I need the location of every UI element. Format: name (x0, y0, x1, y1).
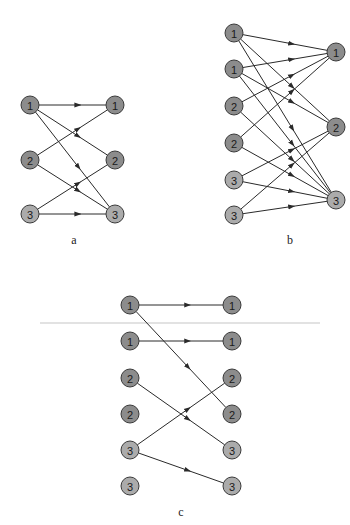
edge-L1-R3 (36, 112, 110, 207)
node-L1b: 1 (121, 332, 139, 350)
edge-tail-segment (292, 129, 331, 193)
panel-label-b: b (287, 233, 293, 247)
node-L3b: 3 (121, 477, 139, 495)
edge-tail-segment (292, 58, 329, 91)
node-R3b: 3 (223, 477, 241, 495)
edge-L2b-R1 (241, 58, 330, 137)
node-label: 2 (229, 409, 235, 421)
node-label: 3 (231, 175, 237, 187)
node-label: 3 (127, 445, 133, 457)
edge-tail-segment (188, 470, 224, 483)
node-label: 2 (27, 155, 33, 167)
edge-tail-segment (292, 144, 330, 193)
node-label: 2 (231, 101, 237, 113)
node-R1: 1 (327, 43, 345, 61)
node-label: 1 (127, 300, 133, 312)
edge-L3a-R3b (138, 453, 223, 483)
node-L3a: 3 (225, 171, 243, 189)
edge-L3a-R2 (242, 131, 328, 176)
panel-label-a: a (71, 233, 77, 247)
edge-L2a-R1 (242, 56, 328, 102)
bipartite-diagrams: 123123a112233123b112233112233c (0, 0, 350, 525)
node-R2: 2 (106, 151, 124, 169)
node-label: 1 (127, 336, 133, 348)
edge-L3b-R3 (243, 201, 327, 213)
edge-L1b-R1 (243, 53, 327, 67)
edge-tail-segment (78, 191, 107, 210)
edge-arrow-segment (240, 76, 293, 144)
edge-L3a-R3 (243, 182, 327, 199)
edge-arrow-segment (243, 59, 292, 67)
edge-arrow-segment (36, 112, 79, 167)
node-L2a: 2 (225, 97, 243, 115)
edge-L1b-R3 (240, 76, 331, 193)
node-L1: 1 (21, 96, 39, 114)
node-label: 1 (231, 64, 237, 76)
node-label: 2 (229, 373, 235, 385)
node-L3: 3 (21, 205, 39, 223)
node-L2b: 2 (225, 134, 243, 152)
node-label: 3 (333, 195, 339, 207)
node-label: 3 (112, 209, 118, 221)
edge-L1a-R2b (136, 312, 226, 408)
node-label: 2 (127, 373, 133, 385)
node-label: 1 (112, 100, 118, 112)
node-label: 1 (27, 100, 33, 112)
node-label: 1 (229, 300, 235, 312)
node-label: 1 (333, 47, 339, 59)
edge-arrow-segment (136, 312, 188, 368)
node-L3b: 3 (225, 206, 243, 224)
node-L2a: 2 (121, 369, 139, 387)
edge-tail-segment (78, 136, 107, 155)
node-label: 3 (229, 445, 235, 457)
edge-arrow-segment (137, 409, 188, 445)
node-label: 2 (127, 409, 133, 421)
edge-tail-segment (292, 131, 328, 150)
edge-arrow-segment (38, 129, 79, 155)
node-L1b: 1 (225, 60, 243, 78)
node-L2: 2 (21, 151, 39, 169)
node-label: 3 (27, 209, 33, 221)
edge-tail-segment (292, 201, 327, 206)
edge-L1a-R1 (243, 35, 327, 51)
node-R2a: 2 (223, 369, 241, 387)
node-R3: 3 (106, 205, 124, 223)
node-R1a: 1 (223, 296, 241, 314)
node-label: 3 (229, 481, 235, 493)
node-label: 1 (229, 336, 235, 348)
panel-label-c: c (178, 505, 183, 519)
node-L1a: 1 (121, 296, 139, 314)
edge-tail-segment (292, 56, 328, 75)
edge-tail-segment (292, 160, 329, 194)
node-label: 2 (333, 122, 339, 134)
node-R2: 2 (327, 118, 345, 136)
edge-tail-segment (78, 165, 107, 184)
edge-arrow-segment (241, 112, 292, 159)
edge-tail-segment (188, 419, 225, 445)
edge-arrow-segment (243, 35, 292, 44)
node-R1: 1 (106, 96, 124, 114)
node-R1b: 1 (223, 332, 241, 350)
node-label: 3 (231, 210, 237, 222)
node-label: 1 (231, 28, 237, 40)
edge-tail-segment (292, 44, 327, 51)
edge-arrow-segment (137, 383, 188, 419)
edge-tail-segment (188, 367, 226, 407)
panel-c: 112233112233c (121, 296, 241, 519)
edge-tail-segment (78, 110, 107, 129)
edge-arrow-segment (38, 165, 78, 191)
node-R3a: 3 (223, 441, 241, 459)
edge-arrow-segment (138, 453, 187, 470)
node-L3a: 3 (121, 441, 139, 459)
node-R2b: 2 (223, 405, 241, 423)
edge-tail-segment (292, 102, 328, 123)
node-L2b: 2 (121, 405, 139, 423)
panel-b: 112233123b (225, 24, 345, 247)
edge-tail-segment (292, 87, 329, 121)
edge-arrow-segment (243, 207, 292, 214)
node-label: 3 (127, 481, 133, 493)
panel-a: 123123a (21, 96, 124, 247)
edge-arrow-segment (241, 165, 292, 209)
edge-arrow-segment (38, 183, 78, 209)
edge-L3b-R2 (241, 133, 329, 209)
